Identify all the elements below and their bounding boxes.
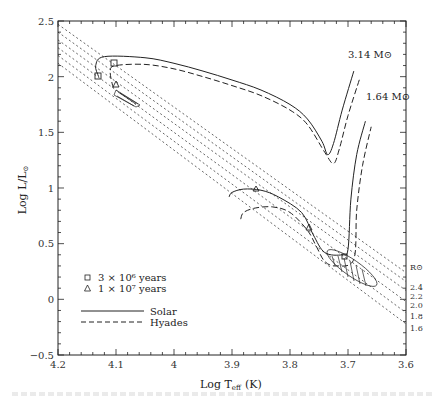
x-tick: 4.1: [108, 359, 124, 370]
radius-line: [58, 40, 406, 290]
y-tick: 1.5: [38, 127, 54, 138]
radius-label: 1.6: [410, 324, 423, 333]
radius-label: 1.8: [410, 312, 423, 321]
triangle-marker: [306, 224, 312, 230]
legend-label-square: 3 × 10⁶ years: [98, 272, 166, 283]
x-axis-title: Log Teff(K): [200, 378, 262, 392]
triangle-marker: [253, 186, 259, 191]
x-tick: 3.9: [224, 359, 240, 370]
x-tick: 3.8: [282, 359, 298, 370]
legend: 3 × 10⁶ years 1 × 10⁷ years Solar Hyades: [81, 272, 188, 328]
x-tick-labels: 4.2 4.1 4 3.9 3.8 3.7 3.6: [50, 359, 414, 370]
x-tick: 4: [171, 359, 177, 370]
figure-caption-cutoff: [12, 392, 432, 396]
y-tick-labels: 2.5 2 1.5 1 0.5 0 −0.5: [30, 16, 54, 361]
evolution-tracks: [96, 56, 372, 266]
mass-label-1-64: 1.64 M⊙: [366, 91, 410, 102]
radius-line: [58, 24, 406, 272]
hyades-track: [110, 64, 359, 163]
radius-label: 2.0: [410, 301, 423, 310]
radius-label: 2.2: [410, 292, 423, 301]
x-tick: 3.6: [398, 359, 414, 370]
solar-track: [96, 56, 354, 155]
track-markers: [95, 60, 347, 259]
hatched-loop-lower: [323, 244, 381, 292]
solar-track: [229, 121, 365, 255]
legend-label-triangle: 1 × 10⁷ years: [98, 283, 166, 294]
y-tick: 2.5: [38, 16, 54, 27]
square-legend-icon: [85, 275, 90, 280]
y-axis-title: Log L/L⊙: [16, 166, 30, 215]
square-marker: [111, 60, 117, 66]
y-tick: 2: [48, 72, 54, 83]
y-tick: 1: [48, 183, 54, 194]
hr-diagram: 4.2 4.1 4 3.9 3.8 3.7 3.6 2.5 2 1.5 1 0.…: [0, 0, 439, 401]
radius-unit-label: R⊙: [410, 263, 423, 272]
y-tick: 0: [48, 294, 54, 305]
x-tick: 3.7: [340, 359, 356, 370]
triangle-marker: [113, 81, 119, 87]
legend-label-solar: Solar: [150, 306, 177, 317]
mass-label-3-14: 3.14 M⊙: [348, 49, 392, 60]
radius-labels: R⊙ 2.4 2.2 2.0 1.8 1.6: [410, 263, 423, 333]
legend-label-hyades: Hyades: [150, 317, 188, 328]
y-tick: −0.5: [30, 350, 54, 361]
y-tick: 0.5: [38, 238, 54, 249]
radius-label: 2.4: [410, 283, 423, 292]
triangle-legend-icon: [85, 285, 91, 291]
